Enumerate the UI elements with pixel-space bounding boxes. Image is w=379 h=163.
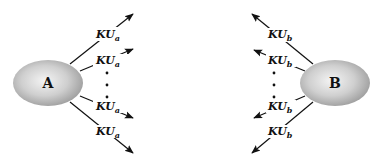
node-a-group: A KUa KUa KUa KUa: [13, 14, 137, 153]
node-b-label: B: [329, 75, 341, 91]
public-key-distribution-diagram: A KUa KUa KUa KUa B KUb KUb KUb KUb: [0, 0, 379, 163]
ellipsis-dot: [106, 72, 109, 75]
ellipsis-dot: [273, 72, 276, 75]
ellipsis-dot: [106, 96, 109, 99]
node-b-group: B KUb KUb KUb KUb: [252, 14, 370, 153]
ellipsis-dot: [106, 84, 109, 87]
ellipsis-dot: [273, 84, 276, 87]
ellipsis-dot: [273, 96, 276, 99]
node-a-label: A: [42, 75, 55, 91]
